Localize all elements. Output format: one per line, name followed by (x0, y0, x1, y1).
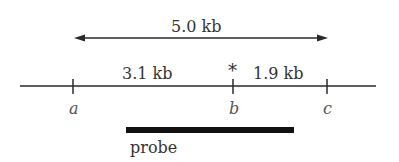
site-a-label: a (69, 101, 79, 117)
total-span-label: 5.0 kb (171, 19, 221, 35)
segment-left-label: 3.1 kb (122, 66, 172, 82)
arrow-left-head (74, 35, 85, 42)
segment-right-label: 1.9 kb (253, 66, 303, 82)
arrow-right-head (317, 35, 328, 42)
probe-bar (126, 127, 294, 133)
mutation-asterisk: * (228, 62, 237, 80)
probe-label: probe (130, 140, 177, 156)
site-c-label: c (323, 101, 332, 117)
site-b-label: b (229, 101, 239, 117)
